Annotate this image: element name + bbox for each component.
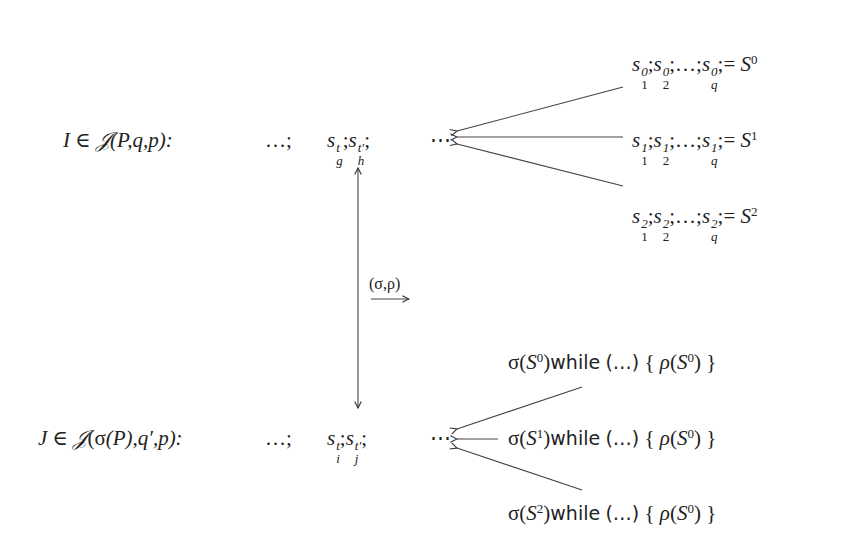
instance-args: (P,q,p):	[110, 128, 173, 152]
top-branch-2: s21;s22;…;s2q;= S2	[632, 206, 758, 244]
bottom-ellipsis-left: …;	[265, 428, 292, 449]
bottom-ellipsis-right: ⋯	[430, 428, 451, 449]
top-branch-0: s01;s02;…;s0q;= S0	[632, 54, 758, 92]
bottom-branch-0: σ(S0)while (…) { ρ(S0) }	[508, 352, 716, 373]
instance-set-symbol: 𝒥	[96, 128, 110, 152]
top-ellipsis-left: …;	[265, 130, 292, 151]
top-ellipsis-right: ⋯	[430, 130, 451, 151]
mapping-label: (σ,ρ)	[369, 276, 400, 292]
bottom-branch-1: σ(S1)while (…) { ρ(S0) }	[508, 428, 716, 449]
top-fan-arrows	[457, 87, 623, 186]
top-branch-1: s11;s12;…;s1q;= S1	[632, 130, 758, 168]
instance-set-symbol: 𝒥	[73, 426, 87, 450]
instance-var-J: J	[38, 426, 47, 450]
top-instance-label: I ∈ 𝒥(P,q,p):	[63, 130, 173, 151]
bottom-instance-label: J ∈ 𝒥(σ(P),q′,p):	[38, 428, 183, 449]
element-of-symbol: ∈	[75, 128, 91, 152]
element-of-symbol: ∈	[53, 426, 69, 450]
instance-var-I: I	[63, 128, 70, 152]
top-sequence: stg;st′h;	[327, 130, 370, 168]
bottom-sequence: sti;st′j;	[327, 428, 367, 466]
bottom-branch-2: σ(S2)while (…) { ρ(S0) }	[508, 503, 716, 524]
